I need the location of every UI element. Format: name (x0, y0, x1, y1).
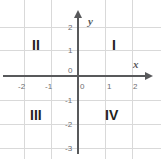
quadrant-label-4: IV (105, 108, 118, 122)
gridline-vertical-x-2 (132, 0, 133, 159)
gridline-horizontal-y-minus-3 (0, 148, 161, 149)
coordinate-plane-figure: y x -2 -1 0 1 2 2 1 0 -1 -2 -3 II I III … (0, 0, 161, 159)
y-axis-label: y (88, 16, 93, 27)
y-tick-label-minus-1: -1 (65, 96, 72, 105)
y-axis-line (77, 17, 79, 154)
gridline-horizontal-y-2 (0, 27, 161, 28)
gridline-vertical-x-minus-2 (24, 0, 25, 159)
quadrant-label-2: II (32, 38, 40, 52)
gridline-horizontal-y-minus-2 (0, 124, 161, 125)
x-axis-arrow-icon (145, 72, 153, 80)
y-axis-arrow-icon (74, 10, 82, 18)
gridline-vertical-x-minus-1 (51, 0, 52, 159)
gridline-horizontal-y-minus-1 (0, 100, 161, 101)
y-tick-label-0: 0 (68, 66, 72, 75)
x-axis-label: x (133, 59, 139, 70)
x-axis-line (3, 75, 145, 77)
x-tick-label-0: 0 (80, 82, 84, 91)
y-tick-label-1: 1 (68, 46, 72, 55)
x-tick-label-minus-2: -2 (18, 82, 25, 91)
gridline-horizontal-y-1 (0, 50, 161, 51)
gridline-vertical-x-1 (105, 0, 106, 159)
quadrant-label-3: III (30, 108, 42, 122)
y-tick-label-minus-2: -2 (65, 120, 72, 129)
x-tick-label-minus-1: -1 (45, 82, 52, 91)
y-tick-label-minus-3: -3 (65, 144, 72, 153)
y-tick-label-2: 2 (68, 23, 72, 32)
x-tick-label-1: 1 (107, 82, 111, 91)
quadrant-label-1: I (112, 38, 116, 52)
x-tick-label-2: 2 (133, 82, 137, 91)
